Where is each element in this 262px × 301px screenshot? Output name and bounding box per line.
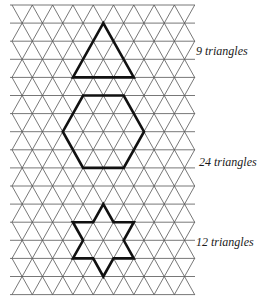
grid-line [42, 5, 52, 23]
grid-line [144, 5, 154, 23]
grid-line [114, 240, 124, 258]
grid-line [114, 277, 124, 295]
grid-line [42, 132, 52, 150]
grid-line [93, 5, 103, 23]
grid-line [124, 5, 134, 23]
grid-line [83, 222, 93, 240]
grid-line [174, 132, 184, 150]
grid-line [53, 77, 63, 95]
grid-line [103, 277, 113, 295]
grid-line [103, 186, 113, 204]
grid-line [22, 258, 32, 276]
grid-line [63, 41, 73, 59]
grid-line [22, 96, 32, 114]
grid-line [12, 114, 22, 132]
grid-line [164, 77, 174, 95]
grid-line [32, 96, 42, 114]
grid-line [83, 186, 93, 204]
label-star: 12 triangles [196, 236, 254, 248]
grid-line [63, 23, 73, 41]
grid-line [164, 150, 174, 168]
grid-line [164, 59, 174, 77]
grid-line [93, 168, 103, 186]
grid-line [114, 150, 124, 168]
grid-line [103, 96, 113, 114]
grid-line [22, 5, 32, 23]
grid-line [164, 222, 174, 240]
grid-line [73, 23, 83, 41]
grid-line [154, 77, 164, 95]
grid-line [174, 41, 184, 59]
grid-line [114, 59, 124, 77]
grid-line [134, 23, 144, 41]
grid-line [93, 240, 103, 258]
grid-line [83, 96, 93, 114]
grid-line [164, 5, 174, 23]
grid-line [144, 150, 154, 168]
grid-line [22, 240, 32, 258]
grid-line [134, 41, 144, 59]
grid-line [144, 23, 154, 41]
grid-line [174, 96, 184, 114]
grid-line [164, 132, 174, 150]
grid-line [103, 41, 113, 59]
grid-line [144, 41, 154, 59]
grid-line [144, 96, 154, 114]
grid-line [103, 168, 113, 186]
grid-line [174, 5, 184, 23]
grid-line [63, 5, 73, 23]
grid-line [53, 23, 63, 41]
grid-line [93, 41, 103, 59]
grid-line [185, 5, 195, 23]
grid-line [144, 222, 154, 240]
grid-line [12, 96, 22, 114]
grid-line [22, 23, 32, 41]
grid-line [124, 258, 134, 276]
grid-line [32, 204, 42, 222]
grid-line [124, 132, 134, 150]
grid-line [134, 96, 144, 114]
grid-line [185, 204, 195, 222]
grid-line [63, 186, 73, 204]
grid-line [53, 222, 63, 240]
grid-line [12, 23, 22, 41]
grid-line [154, 114, 164, 132]
grid-line [103, 240, 113, 258]
grid-line [174, 77, 184, 95]
grid-line [12, 240, 22, 258]
grid-line [93, 186, 103, 204]
grid-line [134, 240, 144, 258]
grid-line [32, 132, 42, 150]
grid-line [53, 5, 63, 23]
grid-line [144, 59, 154, 77]
grid-line [83, 240, 93, 258]
grid-line [144, 240, 154, 258]
grid-line [53, 204, 63, 222]
grid-line [103, 150, 113, 168]
label-hexagon: 24 triangles [199, 156, 257, 168]
grid-line [124, 77, 134, 95]
grid-line [103, 222, 113, 240]
grid-line [134, 168, 144, 186]
grid-line [53, 132, 63, 150]
grid-line [164, 258, 174, 276]
grid-line [12, 168, 22, 186]
grid-line [164, 186, 174, 204]
grid-line [42, 168, 52, 186]
grid-line [83, 168, 93, 186]
grid-line [185, 222, 195, 240]
grid-line [185, 150, 195, 168]
grid-line [164, 240, 174, 258]
grid-line [12, 222, 22, 240]
grid-line [154, 5, 164, 23]
grid-line [73, 5, 83, 23]
grid-line [174, 114, 184, 132]
grid-line [114, 186, 124, 204]
grid-line [42, 240, 52, 258]
grid-line [63, 96, 73, 114]
grid-line [114, 222, 124, 240]
grid-line [103, 114, 113, 132]
grid-line [144, 204, 154, 222]
grid-line [185, 168, 195, 186]
grid-line [53, 41, 63, 59]
